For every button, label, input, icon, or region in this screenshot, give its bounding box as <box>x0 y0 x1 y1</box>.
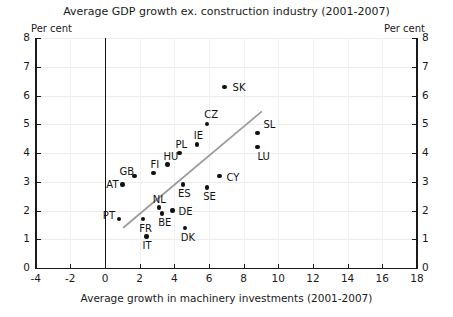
y-tick-label-left: 7 <box>10 60 30 72</box>
data-point-sl <box>255 131 259 135</box>
data-point-label-cy: CY <box>226 173 239 183</box>
y-tick-right <box>412 67 416 68</box>
data-point-label-pl: PL <box>176 140 188 150</box>
y-tick-label-left: 8 <box>10 31 30 43</box>
gridline-vertical <box>244 38 245 268</box>
x-axis <box>35 268 418 269</box>
data-point-lu <box>255 145 259 149</box>
x-tick <box>313 264 314 268</box>
data-point-label-gb: GB <box>119 167 134 177</box>
gridline-vertical <box>313 38 314 268</box>
y-tick-right <box>412 182 416 183</box>
gridline-vertical <box>348 38 349 268</box>
x-tick <box>140 264 141 268</box>
x-tick-label: 0 <box>90 272 120 284</box>
y-tick-label-right: 3 <box>422 175 442 187</box>
data-point-label-se: SE <box>203 192 216 202</box>
x-tick <box>105 264 106 268</box>
trend-line <box>0 0 453 317</box>
data-point-label-be: BE <box>158 218 171 228</box>
data-point-pt <box>117 217 121 221</box>
y-tick-right <box>412 268 416 269</box>
data-point-cy <box>217 174 221 178</box>
gridline-horizontal <box>36 67 416 68</box>
y-tick-label-left: 2 <box>10 204 30 216</box>
x-tick <box>278 264 279 268</box>
data-point-label-hu: HU <box>163 152 178 162</box>
data-point-de <box>170 208 174 212</box>
x-tick <box>36 264 37 268</box>
y-tick-label-right: 8 <box>422 31 442 43</box>
gridline-horizontal <box>36 38 416 39</box>
data-point-es <box>181 182 185 186</box>
y-tick-label-left: 6 <box>10 89 30 101</box>
x-tick <box>70 264 71 268</box>
data-point-at <box>120 182 124 186</box>
y-tick-right <box>412 38 416 39</box>
x-tick <box>209 264 210 268</box>
data-point-ie <box>195 142 199 146</box>
data-point-label-at: AT <box>106 180 118 190</box>
x-tick-label: 6 <box>194 272 224 284</box>
y-tick-label-right: 2 <box>422 204 442 216</box>
x-tick <box>244 264 245 268</box>
data-point-label-sk: SK <box>233 83 246 93</box>
y-axis-right <box>416 38 418 269</box>
data-point-label-ie: IE <box>194 131 203 141</box>
y-tick-label-left: 1 <box>10 232 30 244</box>
x-tick <box>382 264 383 268</box>
x-tick-label: 2 <box>125 272 155 284</box>
x-axis-title: Average growth in machinery investments … <box>0 292 453 304</box>
x-tick <box>417 264 418 268</box>
gridline-horizontal <box>36 239 416 240</box>
gridline-vertical <box>70 38 71 268</box>
gridline-horizontal <box>36 211 416 212</box>
data-point-nl <box>157 205 161 209</box>
data-point-label-fr: FR <box>139 224 152 234</box>
data-point-label-fi: FI <box>151 160 160 170</box>
data-point-dk <box>183 226 187 230</box>
y-tick-right <box>412 96 416 97</box>
gridline-horizontal <box>36 96 416 97</box>
y-tick-left <box>37 211 41 212</box>
data-point-label-cz: CZ <box>204 110 218 120</box>
x-tick-label: 18 <box>402 272 432 284</box>
y-tick-left <box>37 182 41 183</box>
y-tick-label-left: 5 <box>10 117 30 129</box>
y-tick-left <box>37 67 41 68</box>
gridline-vertical <box>209 38 210 268</box>
gridline-horizontal <box>36 153 416 154</box>
zero-vertical-line <box>105 38 106 268</box>
data-point-hu <box>165 162 169 166</box>
gridline-vertical <box>382 38 383 268</box>
y-tick-right <box>412 211 416 212</box>
x-tick-label: 14 <box>333 272 363 284</box>
y-tick-right <box>412 124 416 125</box>
y-axis-unit-left: Per cent <box>31 23 72 34</box>
scatter-chart: Average GDP growth ex. construction indu… <box>0 0 453 317</box>
gridline-vertical <box>278 38 279 268</box>
x-tick-label: -4 <box>21 272 51 284</box>
y-tick-right <box>412 239 416 240</box>
data-point-fr <box>141 217 145 221</box>
x-tick <box>174 264 175 268</box>
x-tick-label: -2 <box>55 272 85 284</box>
data-point-label-de: DE <box>179 207 193 217</box>
data-point-label-nl: NL <box>153 195 166 205</box>
y-tick-left <box>37 38 41 39</box>
data-point-label-it: IT <box>143 241 152 251</box>
gridline-horizontal <box>36 124 416 125</box>
y-tick-label-right: 4 <box>422 146 442 158</box>
data-point-fi <box>151 171 155 175</box>
y-tick-left <box>37 239 41 240</box>
data-point-label-pt: PT <box>103 211 115 221</box>
x-tick-label: 12 <box>298 272 328 284</box>
data-point-label-es: ES <box>178 189 191 199</box>
x-tick-label: 16 <box>367 272 397 284</box>
y-tick-label-left: 3 <box>10 175 30 187</box>
chart-title: Average GDP growth ex. construction indu… <box>0 5 453 18</box>
y-tick-right <box>412 153 416 154</box>
x-tick-label: 10 <box>263 272 293 284</box>
y-tick-label-right: 5 <box>422 117 442 129</box>
y-tick-label-right: 6 <box>422 89 442 101</box>
